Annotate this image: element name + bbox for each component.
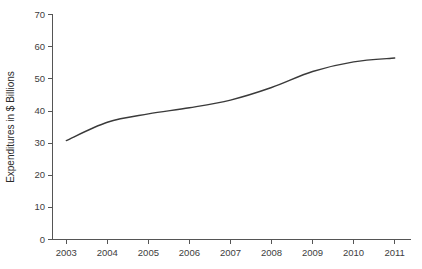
y-tick-label: 50 — [34, 73, 45, 84]
x-tick-label: 2006 — [179, 247, 200, 258]
x-tick-label: 2008 — [261, 247, 282, 258]
x-tick-label: 2010 — [343, 247, 364, 258]
x-tick-label: 2004 — [97, 247, 118, 258]
y-tick-label: 70 — [34, 9, 45, 20]
y-tick-label: 30 — [34, 137, 45, 148]
x-tick-label: 2003 — [56, 247, 77, 258]
y-tick-label: 0 — [40, 234, 45, 245]
chart-canvas: 0 10 20 30 40 50 60 70 2003 2004 2005 2 — [0, 0, 422, 269]
x-tick-label: 2005 — [138, 247, 159, 258]
y-tick-label: 40 — [34, 105, 45, 116]
y-tick-label: 20 — [34, 169, 45, 180]
line-chart: 0 10 20 30 40 50 60 70 2003 2004 2005 2 — [0, 0, 422, 269]
x-tick-label: 2011 — [384, 247, 404, 258]
y-tick-label: 60 — [34, 41, 45, 52]
y-axis-title: Expenditures in $ Billions — [5, 71, 16, 183]
chart-background — [0, 0, 422, 269]
x-tick-label: 2009 — [302, 247, 323, 258]
x-axis-tick-labels: 2003 2004 2005 2006 2007 2008 2009 2010 … — [56, 247, 405, 258]
y-tick-label: 10 — [34, 201, 45, 212]
x-tick-label: 2007 — [220, 247, 241, 258]
